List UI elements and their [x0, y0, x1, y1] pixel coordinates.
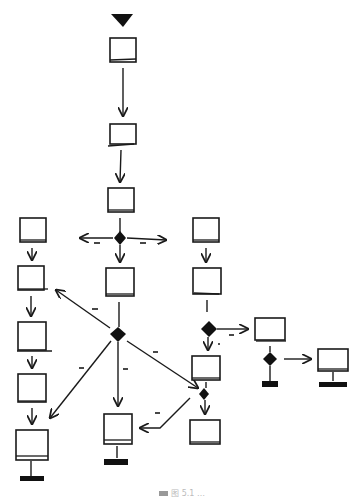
activity-node-n3 [108, 188, 134, 212]
decision-diamond-icon [114, 231, 126, 245]
activity-node-l3 [17, 322, 52, 351]
activity-node-n1 [110, 38, 136, 62]
caption-marker-icon [159, 491, 168, 496]
edge-d2-l5 [50, 341, 111, 418]
edge-d2-d5 [127, 341, 198, 388]
terminal-bar [20, 476, 44, 481]
activity-node-l5 [16, 430, 48, 481]
activity-node-r4 [190, 420, 220, 444]
terminal-bar [104, 459, 128, 465]
activity-node-l4 [18, 374, 46, 402]
decision-diamond-icon [110, 327, 126, 342]
activity-node-l1 [20, 218, 46, 242]
terminal-bar [262, 381, 278, 387]
terminal-bar [319, 382, 347, 387]
activity-node-c2 [104, 414, 132, 465]
edges [31, 68, 311, 428]
decision-diamond-icon [201, 321, 217, 337]
activity-node-r1 [193, 218, 219, 242]
edge-d5-c2 [140, 398, 190, 428]
activity-node-c1 [106, 268, 134, 296]
activity-node-s2 [318, 349, 348, 387]
activity-node-r3 [192, 356, 220, 380]
activity-node-n2 [108, 124, 136, 146]
nodes [16, 38, 348, 481]
start-node-icon [111, 14, 133, 27]
figure-caption: 图 5.1 … [0, 487, 364, 498]
edge-d1-right [127, 238, 166, 240]
edge-d2-l2 [56, 290, 110, 328]
decision-diamond-icon [199, 388, 209, 400]
activity-node-l2 [18, 266, 48, 290]
edge-n2-n3 [120, 150, 121, 182]
caption-text: 图 5.1 … [171, 489, 205, 498]
flow-diagram [0, 0, 364, 498]
activity-node-r2 [193, 268, 221, 294]
decision-diamond-icon [263, 352, 277, 366]
